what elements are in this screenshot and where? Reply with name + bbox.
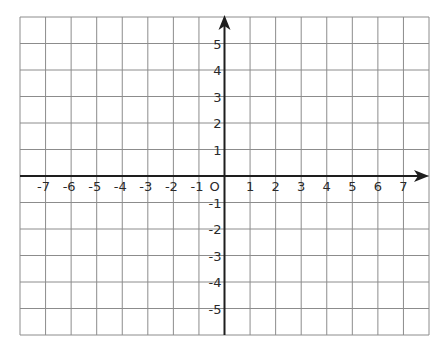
x-tick-label: 3 xyxy=(297,179,305,194)
x-tick-label: 2 xyxy=(271,179,279,194)
x-tick-label: 4 xyxy=(323,179,331,194)
y-tick-label: -3 xyxy=(209,249,222,264)
x-tick-label: -5 xyxy=(88,179,101,194)
x-tick-label: -6 xyxy=(63,179,76,194)
axes xyxy=(20,15,429,335)
x-tick-label: -2 xyxy=(165,179,178,194)
y-tick-label: -4 xyxy=(209,275,222,290)
x-axis-tick-labels: -7-6-5-4-3-2-11234567 xyxy=(37,179,408,194)
y-tick-label: 5 xyxy=(213,37,221,52)
x-tick-label: 5 xyxy=(348,179,356,194)
y-tick-label: -1 xyxy=(209,196,222,211)
y-tick-label: 1 xyxy=(213,143,221,158)
x-tick-label: -7 xyxy=(37,179,50,194)
origin-label: O xyxy=(209,179,219,194)
x-tick-label: 6 xyxy=(374,179,382,194)
x-tick-label: -1 xyxy=(190,179,203,194)
y-tick-label: -2 xyxy=(209,222,222,237)
y-tick-label: -5 xyxy=(209,302,222,317)
x-tick-label: -3 xyxy=(139,179,152,194)
y-tick-label: 2 xyxy=(213,116,221,131)
y-tick-label: 3 xyxy=(213,90,221,105)
y-tick-label: 4 xyxy=(213,63,221,78)
x-tick-label: -4 xyxy=(114,179,127,194)
x-tick-label: 7 xyxy=(399,179,407,194)
x-tick-label: 1 xyxy=(246,179,254,194)
coordinate-plane: -7-6-5-4-3-2-11234567 54321-1-2-3-4-5 O xyxy=(0,0,440,345)
